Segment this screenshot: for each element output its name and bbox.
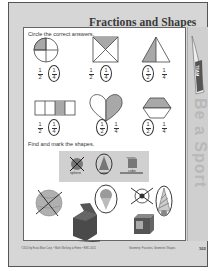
fraction-option[interactable]: 14 — [112, 122, 120, 134]
answer-circle — [96, 119, 108, 136]
hexagon-half-icon — [143, 98, 171, 118]
page-number: 103 — [199, 246, 206, 251]
answer-circle — [48, 65, 60, 82]
footer-topic: Geometry: Fractions, Geometric Shapes — [129, 247, 175, 250]
pennant-label: TEAM — [195, 65, 200, 76]
fraction-option[interactable]: 14 — [160, 122, 168, 134]
bar-quarter-icon — [35, 101, 75, 115]
ice-cream-cone-icon — [95, 185, 117, 213]
fraction-option[interactable]: 12 — [36, 122, 44, 134]
answer-circle — [48, 119, 60, 136]
answer-circle — [142, 119, 154, 136]
footer-copyright: ©2010 by Evan-Moor Corp. • Math Working … — [21, 247, 96, 250]
label-sphere: sphere — [70, 171, 81, 175]
instruction-find: Find and mark the shapes. — [28, 141, 94, 147]
globe-icon — [36, 190, 62, 216]
sidebar-title: Be a Sport — [185, 98, 209, 188]
triangle-half-icon — [142, 37, 170, 62]
circle-quarter-icon — [34, 38, 58, 62]
heart-half-icon — [90, 95, 122, 121]
fraction-shapes — [24, 28, 187, 242]
answer-circle — [100, 65, 112, 82]
party-hat-icon — [156, 186, 172, 216]
answer-circle — [142, 65, 154, 82]
fraction-option[interactable]: 12 — [87, 68, 95, 80]
sphere-icon — [70, 157, 84, 171]
square-quarter-icon — [93, 37, 118, 62]
fraction-option[interactable]: 12 — [36, 68, 44, 80]
worksheet-page: Fractions and Shapes Circle the correct … — [8, 2, 208, 267]
label-cone: cone — [100, 171, 108, 175]
worksheet-panel: Circle the correct answers. — [23, 27, 186, 241]
alphabet-block-icon — [134, 214, 154, 234]
gift-box-icon — [70, 203, 100, 242]
soccer-ball-icon — [131, 188, 153, 204]
fraction-option[interactable]: 14 — [160, 68, 168, 80]
label-cube: cube — [128, 169, 136, 173]
